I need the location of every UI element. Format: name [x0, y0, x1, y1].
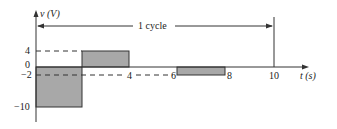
segment-pos4 — [82, 51, 129, 67]
x-axis-label: t (s) — [300, 71, 316, 81]
y-tick-neg2: −2 — [21, 70, 32, 80]
arrow-right-icon — [266, 24, 273, 29]
x-tick-6: 6 — [171, 71, 176, 81]
y-tick-neg10: −10 — [14, 102, 30, 112]
cycle-label: 1 cycle — [138, 21, 167, 31]
x-tick-8: 8 — [227, 71, 232, 81]
x-axis-arrow-icon — [302, 65, 309, 70]
waveform-plot — [0, 0, 337, 129]
arrow-left-icon — [37, 24, 44, 29]
y-axis-label: v (V) — [40, 9, 60, 19]
x-tick-4: 4 — [127, 71, 132, 81]
segment-neg2 — [177, 67, 225, 75]
segment-neg10 — [36, 67, 82, 107]
y-axis-arrow-icon — [34, 10, 39, 17]
x-tick-10: 10 — [269, 71, 279, 81]
y-tick-4: 4 — [25, 46, 30, 56]
